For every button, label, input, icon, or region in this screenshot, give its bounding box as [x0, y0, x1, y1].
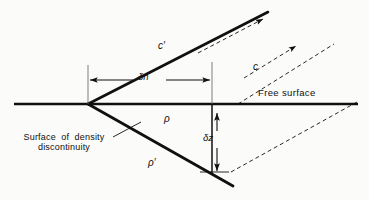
surface-of-density-discontinuity-label: Surface of densitydiscontinuity — [8, 132, 120, 152]
diagram-vector-layer — [0, 0, 369, 200]
c-prime-direction-arrow — [198, 19, 263, 53]
wave-speed-c-prime-label: c′ — [158, 40, 165, 51]
c-ray-dashed-lower — [231, 102, 357, 172]
surface-density-line-1: Surface of density — [23, 132, 104, 142]
density-rho-label: ρ — [164, 113, 170, 124]
figure-canvas: Free surface Surface of densitydiscontin… — [0, 0, 369, 200]
delta-n-label: δn — [138, 72, 149, 83]
surface-density-line-2: discontinuity — [8, 142, 120, 152]
delta-z-label: δz — [203, 133, 213, 144]
free-surface-label: Free surface — [258, 88, 316, 99]
density-rho-prime-label: ρ′ — [148, 157, 156, 168]
c-direction-arrow — [244, 46, 296, 78]
upper-ray-c-prime — [88, 12, 268, 104]
wave-speed-c-label: c — [253, 61, 258, 72]
